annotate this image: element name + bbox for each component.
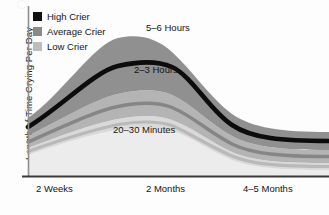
legend-item-high-crier[interactable]: High Crier bbox=[33, 10, 105, 23]
x-axis-tick-2-months: 2 Months bbox=[146, 183, 185, 194]
legend-swatch-low-crier-icon bbox=[33, 42, 42, 51]
legend-item-low-crier[interactable]: Low Crier bbox=[33, 40, 105, 53]
legend-swatch-high-crier-icon bbox=[33, 12, 42, 21]
legend-label-low-crier: Low Crier bbox=[47, 41, 88, 52]
annotation-average-crier: 2–3 Hours bbox=[134, 64, 178, 75]
legend-swatch-average-crier-icon bbox=[33, 27, 42, 36]
legend-item-average-crier[interactable]: Average Crier bbox=[33, 25, 105, 38]
chart-legend: High Crier Average Crier Low Crier bbox=[33, 10, 105, 53]
legend-label-average-crier: Average Crier bbox=[47, 26, 105, 37]
legend-label-high-crier: High Crier bbox=[47, 11, 90, 22]
x-axis-tick-2-weeks: 2 Weeks bbox=[36, 183, 73, 194]
annotation-low-crier: 20–30 Minutes bbox=[113, 124, 175, 135]
annotation-high-crier: 5–6 Hours bbox=[146, 22, 190, 33]
crying-curve-figure: Length of Time Crying Per Day High Crier… bbox=[0, 0, 329, 215]
x-axis-tick-4-5-months: 4–5 Months bbox=[243, 183, 293, 194]
